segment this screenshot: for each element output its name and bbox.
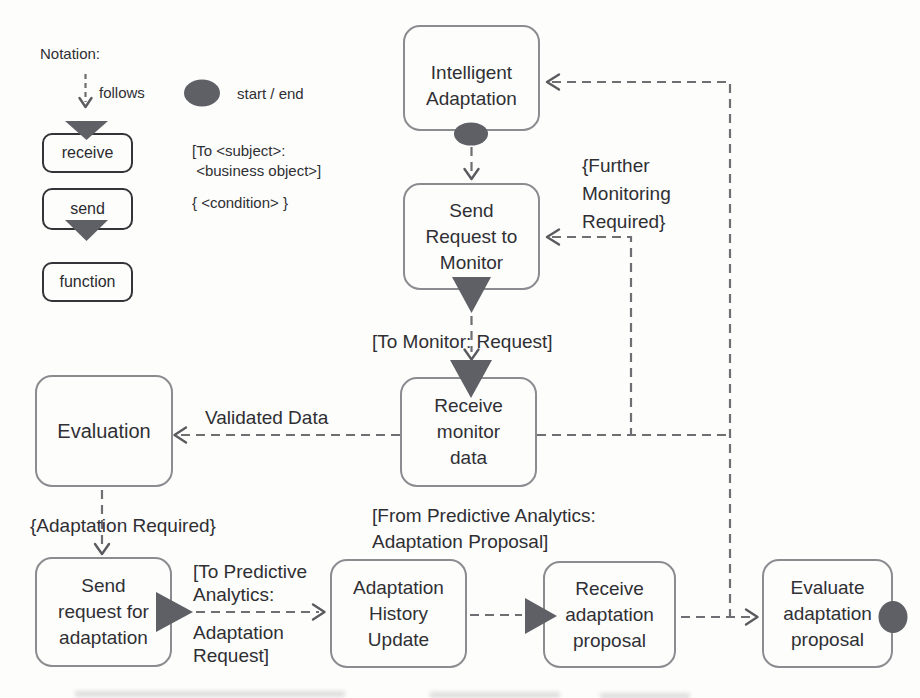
node-send-request-to-monitor: Send Request to Monitor bbox=[403, 183, 540, 290]
node-adaptation-history-update: Adaptation History Update bbox=[330, 559, 467, 668]
label-to-predictive-analytics-bottom: Adaptation Request] bbox=[193, 621, 284, 667]
caption-remnant bbox=[600, 693, 690, 698]
arrowhead-into-evaluation-icon bbox=[175, 428, 187, 443]
node-send-request-to-monitor-label: Send Request to Monitor bbox=[426, 198, 518, 276]
legend-follows-arrowhead-icon bbox=[80, 98, 92, 107]
label-further-monitoring-required: {Further Monitoring Required} bbox=[582, 152, 671, 236]
arrowhead-adaptation-required-down-icon bbox=[95, 544, 109, 554]
node-adaptation-history-update-label: Adaptation History Update bbox=[353, 575, 444, 653]
legend-function-box: function bbox=[42, 262, 133, 302]
caption-remnant bbox=[75, 691, 345, 697]
arrowhead-into-intelligent-adaptation-icon bbox=[547, 75, 559, 90]
label-validated-data: Validated Data bbox=[205, 406, 328, 429]
label-from-predictive-analytics: [From Predictive Analytics: Adaptation P… bbox=[372, 503, 596, 555]
node-evaluation: Evaluation bbox=[35, 375, 173, 487]
node-receive-adaptation-proposal-label: Receive adaptation proposal bbox=[565, 576, 654, 654]
node-evaluate-adaptation-proposal-label: Evaluate adaptation proposal bbox=[783, 575, 872, 653]
node-evaluation-label: Evaluation bbox=[57, 418, 150, 444]
legend-follows-label: follows bbox=[99, 83, 145, 103]
legend-function-label: function bbox=[59, 273, 115, 291]
node-intelligent-adaptation-label: Intelligent Adaptation bbox=[426, 60, 517, 112]
legend-start-end-label: start / end bbox=[237, 84, 304, 104]
caption-remnant bbox=[430, 692, 560, 698]
legend-receive-box: receive bbox=[42, 133, 133, 173]
legend-start-end-ellipse-icon bbox=[184, 80, 220, 107]
node-send-request-for-adaptation-label: Send request for adaptation bbox=[58, 573, 149, 651]
label-adaptation-required: {Adaptation Required} bbox=[30, 514, 216, 537]
node-receive-monitor-data-label: Receive monitor data bbox=[434, 393, 503, 471]
node-intelligent-adaptation: Intelligent Adaptation bbox=[403, 25, 540, 131]
arrowhead-to-history-update-icon bbox=[313, 605, 325, 620]
connector-further-monitoring-branch bbox=[552, 237, 631, 435]
legend-message-syntax-label: [To <subject>: <business object>] bbox=[192, 141, 321, 181]
legend-send-box: send bbox=[42, 188, 133, 230]
legend-condition-syntax-label: { <condition> } bbox=[192, 193, 288, 213]
notation-title: Notation: bbox=[40, 44, 100, 64]
arrowhead-into-evaluate-proposal-icon bbox=[746, 610, 758, 625]
node-evaluate-adaptation-proposal: Evaluate adaptation proposal bbox=[762, 559, 893, 668]
arrowhead-start-down-icon bbox=[465, 169, 479, 179]
node-receive-adaptation-proposal: Receive adaptation proposal bbox=[543, 561, 676, 668]
legend-send-label: send bbox=[70, 200, 105, 218]
diagram-canvas: Notation: follows start / end [To <subje… bbox=[0, 0, 920, 698]
label-to-predictive-analytics-top: [To Predictive Analytics: bbox=[193, 560, 307, 606]
node-receive-monitor-data: Receive monitor data bbox=[400, 377, 537, 487]
arrowhead-into-send-request-monitor-icon bbox=[547, 230, 559, 245]
label-to-monitor-request: [To Monitor: Request] bbox=[372, 330, 553, 353]
legend-receive-label: receive bbox=[62, 144, 114, 162]
node-send-request-for-adaptation: Send request for adaptation bbox=[35, 557, 172, 667]
